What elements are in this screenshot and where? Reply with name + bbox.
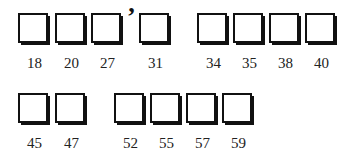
box-label: 31 — [139, 55, 172, 72]
box-icon — [139, 13, 169, 43]
box-label: 20 — [55, 55, 88, 72]
box-label: 18 — [18, 55, 51, 72]
apostrophe-mark: ’ — [127, 2, 136, 32]
box-label: 35 — [233, 55, 266, 72]
box-icon — [186, 93, 216, 123]
box-label: 34 — [197, 55, 230, 72]
box-icon — [233, 13, 263, 43]
box-label: 59 — [222, 135, 255, 152]
box-label: 47 — [55, 135, 88, 152]
box-cell: 45 — [18, 93, 51, 153]
box-icon — [269, 13, 299, 43]
box-icon — [55, 93, 85, 123]
box-icon — [55, 13, 85, 43]
box-label: 52 — [114, 135, 147, 152]
box-cell: 40 — [305, 13, 338, 73]
box-cell: 57 — [186, 93, 219, 153]
box-cell: 20 — [55, 13, 88, 73]
box-cell: 38 — [269, 13, 302, 73]
box-label: 27 — [91, 55, 124, 72]
box-cell: 34 — [197, 13, 230, 73]
box-label: 45 — [18, 135, 51, 152]
box-icon — [18, 13, 48, 43]
box-cell: 59 — [222, 93, 255, 153]
box-label: 57 — [186, 135, 219, 152]
box-icon — [114, 93, 144, 123]
box-cell: 35 — [233, 13, 266, 73]
box-label: 40 — [305, 55, 338, 72]
box-icon — [91, 13, 121, 43]
box-cell: 31 — [139, 13, 172, 73]
box-label: 38 — [269, 55, 302, 72]
box-cell: 52 — [114, 93, 147, 153]
box-icon — [197, 13, 227, 43]
box-label: 55 — [150, 135, 183, 152]
box-cell: 55 — [150, 93, 183, 153]
box-cell: 47 — [55, 93, 88, 153]
box-icon — [305, 13, 335, 43]
box-icon — [222, 93, 252, 123]
box-icon — [150, 93, 180, 123]
box-cell: 27 — [91, 13, 124, 73]
box-cell: 18 — [18, 13, 51, 73]
box-icon — [18, 93, 48, 123]
